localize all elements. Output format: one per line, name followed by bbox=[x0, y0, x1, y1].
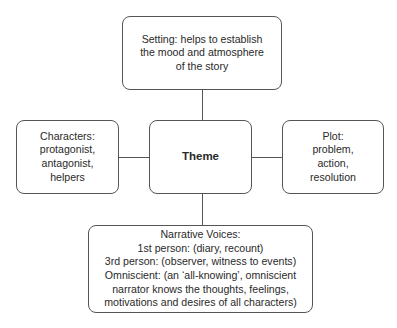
narrative-text-line: narrator knows the thoughts, feelings, bbox=[112, 283, 289, 297]
setting-text-line: the mood and atmosphere bbox=[140, 46, 264, 60]
narrative-text-line: Omniscient: (an ‘all-knowing’, omniscien… bbox=[105, 269, 296, 283]
narrative-voices-node: Narrative Voices: 1st person: (diary, re… bbox=[88, 225, 313, 313]
characters-text-line: protagonist, bbox=[40, 143, 95, 157]
connector-theme-plot bbox=[252, 157, 282, 158]
setting-text-line: of the story bbox=[176, 60, 228, 74]
narrative-text-line: motivations and desires of all character… bbox=[104, 296, 297, 310]
narrative-text-line: 1st person: (diary, recount) bbox=[138, 242, 264, 256]
narrative-text-line: Narrative Voices: bbox=[160, 228, 240, 242]
connector-theme-characters bbox=[119, 157, 149, 158]
connector-theme-setting bbox=[202, 90, 203, 121]
theme-label: Theme bbox=[182, 150, 219, 164]
plot-node: Plot: problem, action, resolution bbox=[282, 120, 384, 194]
plot-text-line: action, bbox=[317, 157, 348, 171]
plot-text-line: Plot: bbox=[322, 130, 343, 144]
narrative-text-line: 3rd person: (observer, witness to events… bbox=[105, 255, 296, 269]
plot-text-line: problem, bbox=[312, 143, 353, 157]
characters-text-line: antagonist, bbox=[42, 157, 94, 171]
characters-text-line: Characters: bbox=[40, 130, 95, 144]
setting-text-line: Setting: helps to establish bbox=[142, 33, 263, 47]
plot-text-line: resolution bbox=[310, 171, 356, 185]
characters-node: Characters: protagonist, antagonist, hel… bbox=[16, 120, 119, 194]
setting-node: Setting: helps to establish the mood and… bbox=[122, 16, 282, 90]
characters-text-line: helpers bbox=[50, 171, 85, 185]
theme-node: Theme bbox=[149, 120, 252, 194]
connector-theme-narrative bbox=[202, 194, 203, 225]
